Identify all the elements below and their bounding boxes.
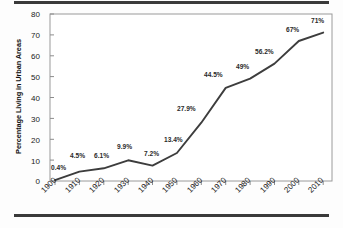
bottom-divider-rule bbox=[14, 214, 329, 217]
point-label-1970: 44.5% bbox=[204, 71, 223, 78]
point-label-2010: 71% bbox=[311, 17, 324, 24]
plot-frame bbox=[50, 14, 332, 181]
point-label-1950: 13.4% bbox=[164, 136, 183, 143]
point-label-2000: 67% bbox=[286, 26, 299, 33]
point-label-1960: 27.9% bbox=[177, 105, 196, 112]
point-label-1980: 49% bbox=[236, 63, 249, 70]
line-chart: Percentage Living in Urban Areas 80 70 6… bbox=[0, 0, 343, 212]
point-label-1940: 7.2% bbox=[144, 150, 159, 157]
point-label-1990: 56.2% bbox=[255, 48, 274, 55]
chart-page: Percentage Living in Urban Areas 80 70 6… bbox=[0, 0, 343, 228]
point-label-1900: 0.4% bbox=[51, 164, 66, 171]
point-label-1910: 4.5% bbox=[70, 152, 85, 159]
point-label-1930: 9.9% bbox=[117, 143, 132, 150]
point-label-1920: 6.1% bbox=[94, 152, 109, 159]
